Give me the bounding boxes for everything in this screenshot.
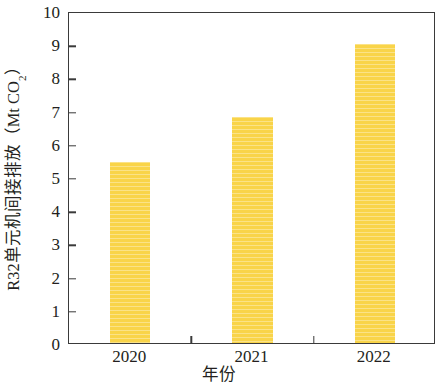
y-axis-tick-label: 8: [52, 70, 61, 87]
y-axis-tick-label: 10: [43, 4, 60, 21]
y-axis-tick-label: 7: [52, 103, 61, 120]
bar: [232, 117, 272, 343]
bar: [355, 44, 395, 343]
x-axis-tick-label: 2020: [112, 348, 146, 365]
y-axis-title-subscript: 2: [16, 76, 28, 82]
plot-area: [68, 12, 435, 344]
x-axis-tick-label: 2021: [235, 348, 269, 365]
y-axis-tick-label: 2: [52, 269, 61, 286]
y-axis-tick-mark: [69, 45, 76, 46]
y-axis-tick-mark: [69, 145, 76, 146]
y-axis-title-main: R32单元机间接排放（Mt CO: [3, 81, 22, 291]
y-axis-title-container: R32单元机间接排放（Mt CO2）: [0, 0, 30, 350]
y-axis-tick-label: 0: [52, 336, 61, 353]
y-axis-tick-label: 6: [52, 136, 61, 153]
y-axis-title-tail: ）: [3, 59, 22, 76]
y-axis-tick-mark: [69, 79, 76, 80]
y-axis-title: R32单元机间接排放（Mt CO2）: [5, 59, 24, 291]
y-axis-tick-mark: [69, 112, 76, 113]
y-axis-tick-mark: [69, 311, 76, 312]
x-axis-tick-mark: [191, 336, 192, 343]
y-axis-tick-label: 1: [52, 302, 61, 319]
x-axis-title: 年份: [0, 367, 438, 384]
y-axis-tick-label: 4: [52, 203, 61, 220]
bar: [110, 162, 150, 343]
bar-chart-figure: R32单元机间接排放（Mt CO2） 012345678910 20202021…: [0, 0, 438, 392]
y-axis-tick-mark: [69, 178, 76, 179]
y-axis-tick-mark: [69, 245, 76, 246]
y-axis-tick-mark: [69, 278, 76, 279]
y-axis-tick-label: 5: [52, 170, 61, 187]
y-axis-tick-label: 9: [52, 37, 61, 54]
y-axis-tick-labels: 012345678910: [28, 12, 64, 344]
y-axis-tick-label: 3: [52, 236, 61, 253]
x-axis-tick-mark: [313, 336, 314, 343]
x-axis-tick-label: 2022: [357, 348, 391, 365]
y-axis-tick-mark: [69, 211, 76, 212]
